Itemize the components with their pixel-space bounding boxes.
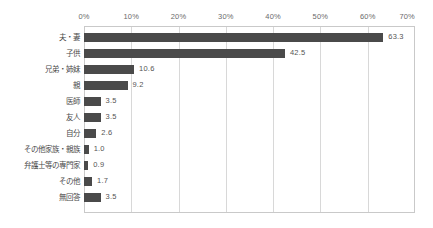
x-tick-label: 70% <box>399 12 415 21</box>
bar-value-label: 1.0 <box>94 144 105 154</box>
bar-row: 1.0 <box>84 145 415 154</box>
bar-value-label: 2.6 <box>101 128 112 138</box>
bar <box>84 129 96 138</box>
x-tick-label: 20% <box>171 12 187 21</box>
bar <box>84 113 101 122</box>
category-label: 友人 <box>0 113 80 122</box>
bar-row: 42.5 <box>84 49 415 58</box>
bar-value-label: 10.6 <box>139 64 154 74</box>
bar <box>84 145 89 154</box>
category-label: その他家族・親族 <box>0 145 80 154</box>
bar-row: 3.5 <box>84 113 415 122</box>
bar <box>84 97 101 106</box>
bar-value-label: 3.5 <box>106 192 117 202</box>
category-label: 子供 <box>0 49 80 58</box>
bar-value-label: 3.5 <box>106 112 117 122</box>
category-label: 夫・妻 <box>0 33 80 42</box>
bar-value-label: 9.2 <box>133 80 144 90</box>
bar-row: 9.2 <box>84 81 415 90</box>
bar <box>84 49 285 58</box>
bars-layer: 63.342.510.69.23.53.52.61.00.91.73.5 <box>84 26 415 213</box>
bar-row: 1.7 <box>84 177 415 186</box>
x-tick-label: 60% <box>360 12 376 21</box>
bar-row: 10.6 <box>84 65 415 74</box>
category-label: 自分 <box>0 129 80 138</box>
bar-chart: 0%10%20%30%40%50%60%70% 夫・妻子供兄弟・姉妹親医師友人自… <box>0 0 433 228</box>
bar-value-label: 42.5 <box>290 48 305 58</box>
bar <box>84 177 92 186</box>
x-tick-label: 10% <box>123 12 139 21</box>
x-tick-label: 40% <box>265 12 281 21</box>
category-label: 弁護士等の専門家 <box>0 161 80 170</box>
category-label: 親 <box>0 81 80 90</box>
bar <box>84 65 134 74</box>
bar-value-label: 1.7 <box>97 176 108 186</box>
x-tick-label: 0% <box>78 12 89 21</box>
bar <box>84 81 128 90</box>
category-label: その他 <box>0 177 80 186</box>
x-tick-label: 50% <box>313 12 329 21</box>
bar-row: 63.3 <box>84 33 415 42</box>
bar-row: 2.6 <box>84 129 415 138</box>
bar-row: 3.5 <box>84 193 415 202</box>
category-label: 兄弟・姉妹 <box>0 65 80 74</box>
bar-value-label: 3.5 <box>106 96 117 106</box>
bar <box>84 161 88 170</box>
bar-value-label: 63.3 <box>388 32 403 42</box>
x-tick-label: 30% <box>218 12 234 21</box>
category-axis-labels: 夫・妻子供兄弟・姉妹親医師友人自分その他家族・親族弁護士等の専門家その他無回答 <box>0 26 80 213</box>
bar-value-label: 0.9 <box>93 160 104 170</box>
category-label: 無回答 <box>0 193 80 202</box>
bar <box>84 33 383 42</box>
bar-row: 3.5 <box>84 97 415 106</box>
x-axis-tick-labels: 0%10%20%30%40%50%60%70% <box>0 0 433 26</box>
bar <box>84 193 101 202</box>
bar-row: 0.9 <box>84 161 415 170</box>
category-label: 医師 <box>0 97 80 106</box>
